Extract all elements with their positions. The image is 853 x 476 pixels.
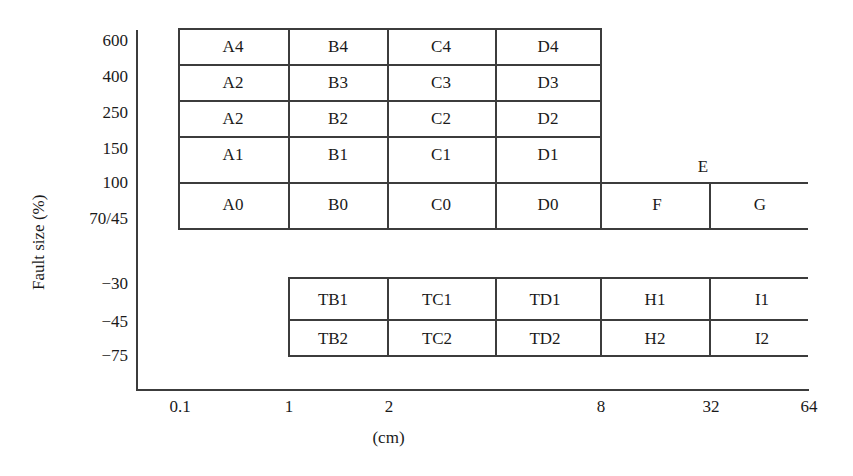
grid-cell-label: B3	[328, 74, 348, 91]
y-axis-spine	[136, 30, 138, 390]
upper-grid-vline	[709, 182, 711, 228]
grid-cell-label: C1	[431, 146, 451, 163]
lower-grid-hline	[288, 355, 808, 357]
x-axis-spine	[136, 389, 809, 391]
upper-grid-hline	[178, 28, 600, 30]
grid-cell-label: C3	[431, 74, 451, 91]
grid-cell-label: TC2	[422, 330, 452, 347]
upper-grid-vline	[495, 28, 497, 228]
grid-cell-label: TB1	[318, 291, 348, 308]
grid-cell-label: D1	[538, 146, 559, 163]
x-tick-label: 8	[597, 398, 606, 415]
y-axis-title: Fault size (%)	[29, 90, 49, 290]
upper-grid-vline	[178, 28, 180, 228]
x-tick-label: 2	[385, 398, 394, 415]
upper-grid-vline	[288, 28, 290, 228]
fault-size-chart: Fault size (%) (cm) 60040025015010070/45…	[0, 0, 853, 476]
grid-cell-label: B4	[328, 38, 348, 55]
lower-grid-vline	[600, 277, 602, 355]
grid-cell-label: A1	[223, 146, 244, 163]
grid-cell-label: TB2	[318, 330, 348, 347]
grid-cell-label: D4	[538, 38, 559, 55]
x-tick-label: 32	[703, 398, 720, 415]
grid-cell-label: B1	[328, 146, 348, 163]
y-tick-label: −45	[101, 313, 128, 330]
grid-cell-label: A4	[223, 38, 244, 55]
upper-grid-hline	[178, 64, 600, 66]
lower-grid-vline	[387, 277, 389, 355]
grid-cell-label: F	[652, 196, 661, 213]
grid-cell-label: D3	[538, 74, 559, 91]
grid-cell-label: I1	[755, 291, 769, 308]
upper-grid-hline	[178, 100, 600, 102]
y-tick-label: 400	[103, 68, 129, 85]
grid-cell-label: A0	[223, 196, 244, 213]
upper-grid-vline	[600, 28, 602, 228]
grid-cell-label: C4	[431, 38, 451, 55]
upper-grid-hline	[178, 228, 808, 230]
grid-cell-label: C2	[431, 110, 451, 127]
grid-cell-label: TD1	[529, 291, 560, 308]
x-axis-title: (cm)	[0, 428, 853, 448]
upper-grid-vline	[387, 28, 389, 228]
y-tick-label: 150	[103, 140, 129, 157]
x-tick-label: 0.1	[169, 398, 190, 415]
y-tick-label: −30	[101, 275, 128, 292]
lower-grid-hline	[288, 277, 808, 279]
grid-cell-label: I2	[755, 330, 769, 347]
x-tick-label: 1	[285, 398, 294, 415]
lower-grid-vline	[288, 277, 290, 355]
grid-cell-label: A2	[223, 74, 244, 91]
grid-cell-label: C0	[431, 196, 451, 213]
upper-grid-hline	[178, 136, 600, 138]
grid-cell-label: D2	[538, 110, 559, 127]
lower-grid-hline	[288, 319, 808, 321]
lower-grid-vline	[495, 277, 497, 355]
y-tick-label: 250	[103, 104, 129, 121]
grid-cell-label: B2	[328, 110, 348, 127]
y-tick-label: 100	[103, 174, 129, 191]
grid-cell-label: H1	[645, 291, 666, 308]
y-tick-label: 600	[103, 32, 129, 49]
lower-grid-vline	[709, 277, 711, 355]
y-tick-label: 70/45	[89, 210, 128, 227]
grid-cell-label: H2	[645, 330, 666, 347]
grid-cell-label: TC1	[422, 291, 452, 308]
grid-cell-label: D0	[538, 196, 559, 213]
grid-cell-label: TD2	[529, 330, 560, 347]
x-tick-label: 64	[801, 398, 818, 415]
x-axis-title-text: (cm)	[372, 428, 404, 448]
grid-cell-label: G	[754, 196, 766, 213]
grid-cell-label: A2	[223, 110, 244, 127]
grid-cell-label: E	[698, 158, 708, 175]
grid-cell-label: B0	[328, 196, 348, 213]
y-tick-label: −75	[101, 347, 128, 364]
upper-grid-hline	[178, 182, 808, 184]
